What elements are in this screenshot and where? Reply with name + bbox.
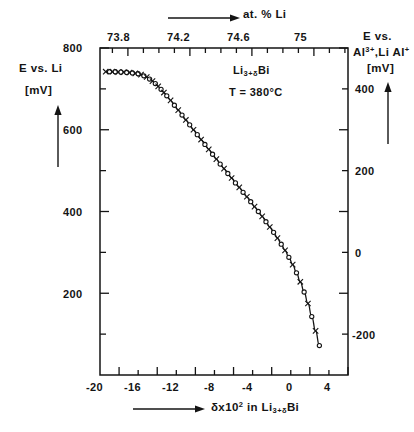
data-point-cross bbox=[252, 204, 257, 209]
data-point-cross bbox=[275, 235, 280, 240]
data-point-circle bbox=[203, 142, 207, 146]
plot-area bbox=[0, 0, 414, 432]
plot-frame bbox=[100, 48, 348, 375]
data-point-circle bbox=[249, 200, 253, 204]
data-point-circle bbox=[180, 113, 184, 117]
data-point-cross bbox=[221, 166, 226, 171]
figure-container: at. % Li 73.8 74.2 74.6 75 E vs. Li [mV]… bbox=[0, 0, 414, 432]
data-point-cross bbox=[168, 98, 173, 103]
data-markers bbox=[103, 69, 321, 348]
data-point-circle bbox=[317, 343, 321, 347]
data-point-circle bbox=[195, 133, 199, 137]
data-point-circle bbox=[264, 220, 268, 224]
data-point-cross bbox=[290, 262, 295, 267]
data-point-circle bbox=[302, 290, 306, 294]
data-point-cross bbox=[229, 175, 234, 180]
data-point-cross bbox=[214, 156, 219, 161]
data-point-cross bbox=[282, 248, 287, 253]
axis-ticks bbox=[100, 48, 348, 375]
data-point-circle bbox=[188, 123, 192, 127]
data-point-circle bbox=[272, 230, 276, 234]
data-point-cross bbox=[313, 328, 318, 333]
data-point-cross bbox=[298, 279, 303, 284]
data-point-cross bbox=[191, 127, 196, 132]
data-point-cross bbox=[259, 214, 264, 219]
data-point-cross bbox=[198, 137, 203, 142]
data-point-circle bbox=[310, 314, 314, 318]
data-point-circle bbox=[279, 242, 283, 246]
data-point-circle bbox=[256, 209, 260, 213]
data-point-cross bbox=[305, 301, 310, 306]
data-point-cross bbox=[244, 194, 249, 199]
data-point-circle bbox=[172, 103, 176, 107]
data-point-cross bbox=[176, 107, 181, 112]
data-point-cross bbox=[237, 185, 242, 190]
data-point-circle bbox=[287, 255, 291, 259]
data-point-cross bbox=[267, 224, 272, 229]
data-point-circle bbox=[210, 152, 214, 156]
data-point-circle bbox=[294, 271, 298, 275]
data-point-cross bbox=[183, 117, 188, 122]
data-curve bbox=[106, 72, 320, 346]
data-point-cross bbox=[206, 147, 211, 152]
